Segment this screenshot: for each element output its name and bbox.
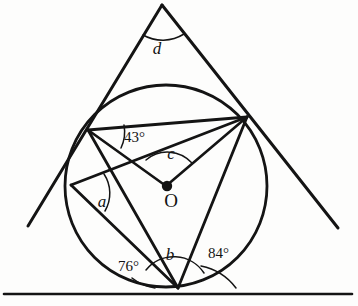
chord-upperleft-to-right <box>88 117 247 130</box>
left-tangent-line <box>28 5 162 226</box>
chord-left-to-right <box>71 117 247 185</box>
angle-arc-84 <box>201 266 236 288</box>
geometry-diagram: 43° 76° 84° a b c d O <box>0 0 358 306</box>
label-var-d: d <box>153 39 162 58</box>
label-var-b: b <box>166 245 175 264</box>
right-tangent-line <box>162 5 338 228</box>
chord-right-to-bottom <box>178 117 247 288</box>
label-var-a: a <box>98 192 107 211</box>
label-angle-76: 76° <box>118 258 139 274</box>
geometry-canvas: 43° 76° 84° a b c d O <box>0 0 358 306</box>
label-var-c: c <box>167 144 175 163</box>
radius-to-right-vertex <box>166 117 247 186</box>
label-center-O: O <box>164 190 178 211</box>
label-angle-84: 84° <box>208 245 229 261</box>
label-angle-43: 43° <box>124 129 145 145</box>
angle-arc-d <box>143 34 184 40</box>
